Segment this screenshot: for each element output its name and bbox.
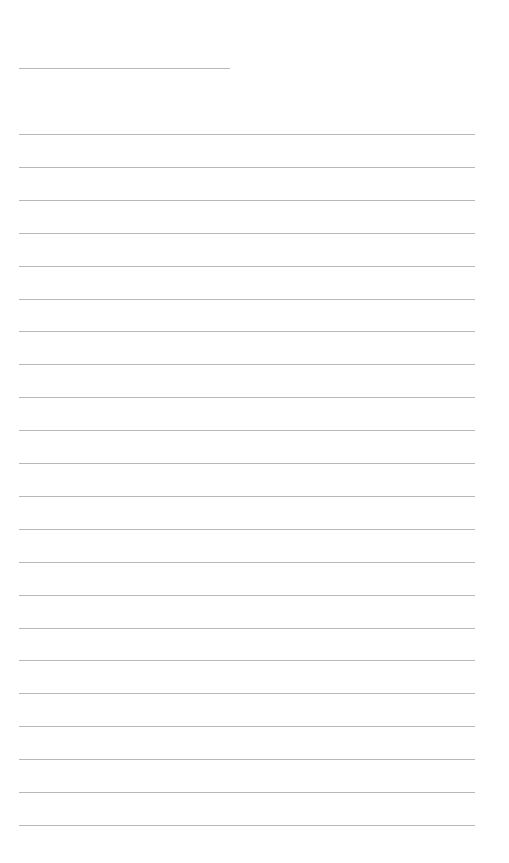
ruled-line (19, 463, 475, 464)
ruled-line (19, 266, 475, 267)
ruled-line (19, 496, 475, 497)
ruled-line (19, 693, 475, 694)
ruled-line (19, 397, 475, 398)
ruled-line (19, 628, 475, 629)
ruled-line (19, 299, 475, 300)
ruled-line (19, 726, 475, 727)
ruled-line (19, 595, 475, 596)
ruled-line (19, 167, 475, 168)
ruled-line (19, 562, 475, 563)
ruled-line (19, 134, 475, 135)
ruled-line (19, 529, 475, 530)
ruled-line (19, 430, 475, 431)
ruled-line (19, 759, 475, 760)
ruled-line (19, 331, 475, 332)
ruled-line (19, 792, 475, 793)
ruled-line (19, 660, 475, 661)
ruled-line (19, 364, 475, 365)
ruled-line (19, 200, 475, 201)
title-line (19, 68, 230, 69)
ruled-line (19, 233, 475, 234)
ruled-line (19, 825, 475, 826)
